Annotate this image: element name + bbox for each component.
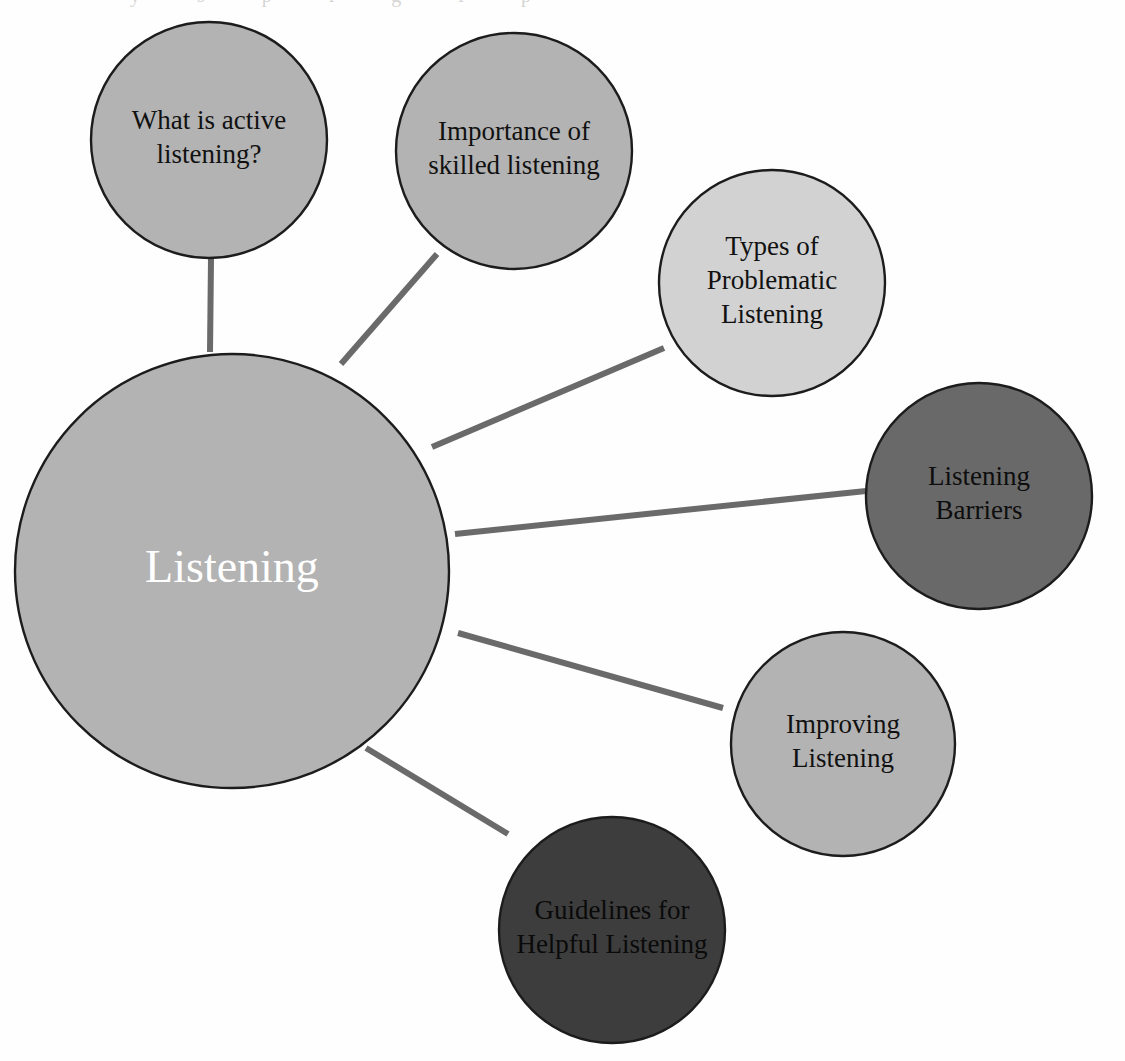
node-circle-importance-of-skilled-listening[interactable]	[396, 33, 632, 269]
node-circle-what-is-active-listening[interactable]	[91, 22, 327, 258]
node-circle-listening-barriers[interactable]	[866, 383, 1092, 609]
node-layer	[15, 22, 1092, 1043]
node-circle-improving-listening[interactable]	[731, 632, 955, 856]
node-circle-guidelines-for-helpful-listening[interactable]	[499, 817, 725, 1043]
connector-to-types-of-problematic-listening	[432, 348, 664, 447]
connector-to-listening-barriers	[455, 491, 866, 534]
connector-to-guidelines-for-helpful-listening	[366, 748, 508, 834]
mindmap-svg: ListeningWhat is activelistening?Importa…	[0, 0, 1125, 1061]
connector-to-what-is-active-listening	[210, 259, 211, 352]
node-circle-listening[interactable]	[15, 354, 449, 788]
node-circle-types-of-problematic-listening[interactable]	[659, 170, 885, 396]
connector-to-importance-of-skilled-listening	[341, 254, 437, 364]
connector-to-improving-listening	[458, 633, 723, 708]
mindmap-canvas: y s p l g l p ListeningWhat is activelis…	[0, 0, 1125, 1061]
